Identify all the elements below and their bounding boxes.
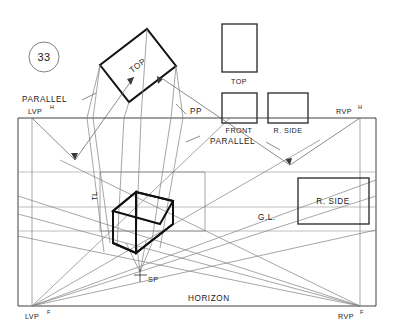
figure-number-text: 33 bbox=[37, 51, 50, 63]
rvp-h-label-sup: H bbox=[358, 104, 362, 110]
lvp-f-label-base: LVP bbox=[25, 312, 39, 321]
rvp-h-label: RVP H bbox=[336, 104, 362, 115]
picture-plane-label: PP bbox=[190, 107, 202, 116]
rotated-top-view-plan: TOP bbox=[100, 29, 176, 102]
perspective-drawing-canvas: TOP bbox=[0, 0, 394, 336]
ground-line-label: G.L. bbox=[258, 213, 276, 222]
parallel-label-right: PARALLEL bbox=[210, 137, 255, 146]
horizon-label: HORIZON bbox=[188, 294, 230, 303]
top-view-projectors bbox=[87, 29, 183, 118]
lvp-f-label: LVP F bbox=[25, 309, 51, 320]
figure-number-badge: 33 bbox=[29, 42, 59, 72]
left-vanishing-point-convergence bbox=[32, 118, 376, 306]
perspective-right-side-label: R. SIDE bbox=[316, 197, 349, 206]
lvp-f-label-sup: F bbox=[47, 309, 51, 315]
ortho-front-rect bbox=[222, 93, 257, 123]
drawing-frame bbox=[18, 118, 376, 306]
parallel-ray-arrowheads bbox=[71, 76, 292, 165]
rvp-f-label: RVP F bbox=[338, 309, 364, 320]
parallel-label-left: PARALLEL bbox=[22, 95, 67, 104]
rvp-h-label-base: RVP bbox=[336, 107, 352, 116]
rvp-f-label-sup: F bbox=[360, 309, 364, 315]
text-labels: PARALLEL PARALLEL PP G.L. SP HORIZON LVP… bbox=[22, 95, 364, 321]
perspective-construction-drawing: TOP bbox=[0, 0, 394, 336]
ortho-front-label: FRONT bbox=[226, 126, 253, 135]
ortho-top-rect bbox=[222, 24, 257, 72]
perspective-right-side-view: R. SIDE bbox=[298, 178, 369, 224]
ortho-rside-label: R. SIDE bbox=[274, 126, 303, 135]
lvp-h-label: LVP H bbox=[28, 104, 54, 115]
lvp-h-label-sup: H bbox=[50, 104, 54, 110]
perspective-box-object bbox=[113, 192, 173, 253]
lvp-h-label-base: LVP bbox=[28, 107, 42, 116]
true-length-label: TL bbox=[90, 191, 99, 200]
station-point-rays bbox=[126, 240, 152, 272]
parallel-construction-rays bbox=[32, 77, 360, 165]
ortho-rside-rect bbox=[268, 93, 308, 123]
rvp-f-label-base: RVP bbox=[338, 312, 354, 321]
ortho-top-label: TOP bbox=[231, 77, 247, 86]
station-point-label: SP bbox=[148, 275, 158, 284]
